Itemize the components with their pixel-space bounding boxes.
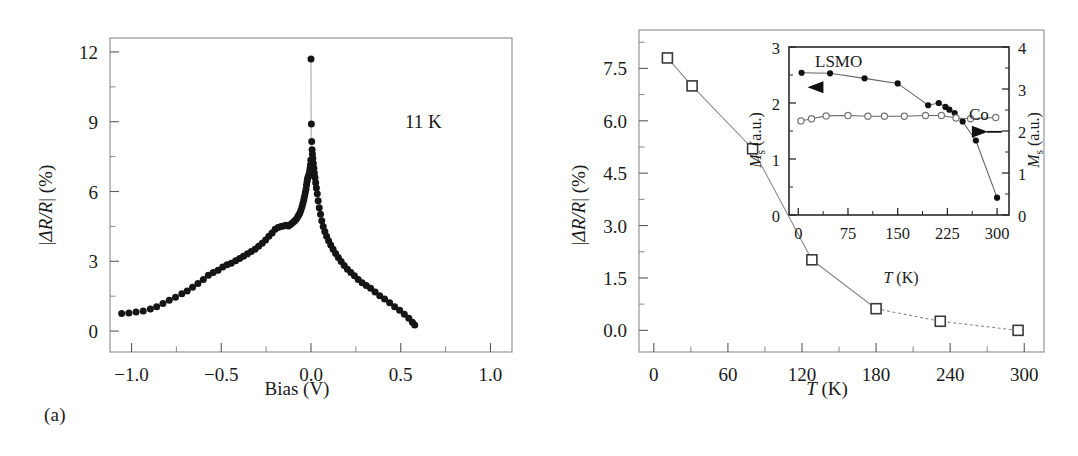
- data-point: [118, 310, 125, 317]
- inset-co-point: [798, 118, 804, 124]
- data-point: [166, 297, 173, 304]
- panel-a-y-tick-label: 3: [89, 251, 99, 272]
- data-point: [314, 190, 321, 197]
- inset-co-point: [953, 115, 959, 121]
- inset-label-co: Co: [969, 105, 989, 124]
- inset-lsmo-point: [895, 80, 901, 86]
- data-point: [125, 309, 132, 316]
- panel-b-y-tick-label: 6.0: [603, 111, 627, 132]
- panel-a-x-tick-label: −0.5: [204, 364, 238, 385]
- data-point: [153, 303, 160, 310]
- panel-a-x-tick-label: −1.0: [114, 364, 148, 385]
- inset-lsmo-point: [861, 75, 867, 81]
- inset-y-tick-label-left: 3: [772, 39, 780, 58]
- data-point: [411, 322, 418, 329]
- panel-b-connector-line-dashed: [876, 309, 1018, 331]
- inset-co-point: [938, 112, 944, 118]
- inset-co-point: [881, 113, 887, 119]
- panel-a-temperature-annotation: 11 K: [405, 111, 442, 132]
- inset-lsmo-point: [994, 195, 1000, 201]
- panel-a-caption: (a): [44, 404, 66, 426]
- inset-x-tick-label: 225: [935, 224, 960, 243]
- inset-co-point: [993, 114, 999, 120]
- panel-b-x-tick-label: 180: [862, 364, 891, 385]
- inset-y-tick-label-left: 2: [772, 95, 780, 114]
- panel-b-y-tick-label: 7.5: [603, 58, 627, 79]
- data-point: [316, 204, 323, 211]
- panel-b-x-tick-label: 300: [1010, 364, 1039, 385]
- inset-co-point: [901, 113, 907, 119]
- inset-lsmo-point: [946, 107, 952, 113]
- data-point: [159, 300, 166, 307]
- panel-b-y-tick-label: 1.5: [603, 268, 627, 289]
- inset-lsmo-point: [936, 100, 942, 106]
- panel-b: 0601201802403000.01.53.04.56.07.5 |ΔR/R|…: [539, 0, 1078, 456]
- panel-a-y-tick-label: 6: [89, 182, 99, 203]
- inset-y-tick-label-left: 0: [772, 207, 780, 226]
- panel-b-x-axis-title: T (K): [806, 378, 848, 400]
- inset-axes: 075150225300012301234: [772, 39, 1027, 243]
- data-point: [315, 197, 322, 204]
- inset-co-point: [823, 113, 829, 119]
- inset-x-tick-label: 0: [794, 224, 802, 243]
- data-point: [140, 308, 147, 315]
- panel-b-y-tick-label: 0.0: [603, 320, 627, 341]
- data-point: [317, 211, 324, 218]
- inset-y-tick-label-left: 1: [772, 151, 780, 170]
- inset-lsmo-point: [960, 118, 966, 124]
- panel-b-x-tick-label: 0: [649, 364, 659, 385]
- inset-co-point: [808, 116, 814, 122]
- data-point: [172, 294, 179, 301]
- data-point: [308, 121, 315, 128]
- panel-b-plot: 0601201802403000.01.53.04.56.07.5 |ΔR/R|…: [539, 0, 1078, 456]
- inset-co-point: [845, 112, 851, 118]
- inset-x-tick-label: 300: [985, 224, 1010, 243]
- data-point: [935, 316, 945, 326]
- panel-a: −1.0−0.50.00.51.0036912 |ΔR/R| (%) Bias …: [0, 0, 539, 456]
- data-point: [687, 81, 697, 91]
- data-point: [807, 255, 817, 265]
- data-point: [133, 308, 140, 315]
- panel-a-axes: −1.0−0.50.00.51.0036912: [79, 38, 512, 385]
- data-point: [308, 55, 315, 62]
- inset-y-axis-left-title: Ms (a.u.): [747, 112, 767, 169]
- panel-a-data-series: [118, 55, 418, 328]
- panel-a-y-tick-label: 0: [89, 321, 99, 342]
- inset-lsmo-point: [925, 102, 931, 108]
- panel-a-y-tick-label: 12: [79, 42, 98, 63]
- panel-a-x-axis-title: Bias (V): [265, 378, 330, 400]
- panel-b-x-tick-label: 240: [936, 364, 965, 385]
- data-point: [308, 138, 315, 145]
- inset-co-point: [865, 113, 871, 119]
- inset-chart: 075150225300012301234 Ms (a.u.) Ms (a.u.…: [747, 39, 1045, 287]
- data-point: [1013, 325, 1023, 335]
- data-point: [662, 53, 672, 63]
- data-point: [871, 304, 881, 314]
- panel-a-y-axis-title: |ΔR/R| (%): [35, 165, 57, 246]
- inset-x-axis-title: T (K): [883, 269, 918, 287]
- panel-b-y-tick-label: 3.0: [603, 216, 627, 237]
- inset-lsmo-point: [973, 137, 979, 143]
- inset-y-tick-label-right: 4: [1018, 39, 1026, 58]
- panel-a-x-tick-label: 1.0: [479, 364, 503, 385]
- inset-y-tick-label-right: 0: [1018, 207, 1026, 226]
- inset-y-axis-right-title: Ms (a.u.): [1025, 112, 1045, 169]
- inset-x-tick-label: 150: [885, 224, 910, 243]
- inset-lsmo-point: [827, 70, 833, 76]
- inset-label-lsmo: LSMO: [815, 52, 862, 71]
- data-point: [147, 305, 154, 312]
- inset-co-point: [922, 112, 928, 118]
- figure-container: −1.0−0.50.00.51.0036912 |ΔR/R| (%) Bias …: [0, 0, 1078, 456]
- inset-y-tick-label-right: 3: [1018, 81, 1026, 100]
- inset-lsmo-point: [798, 70, 804, 76]
- panel-a-y-tick-label: 9: [89, 112, 99, 133]
- panel-a-x-tick-label: 0.5: [389, 364, 413, 385]
- inset-x-tick-label: 75: [840, 224, 857, 243]
- panel-b-y-axis-title: |ΔR/R| (%): [568, 165, 590, 246]
- panel-b-x-tick-label: 60: [718, 364, 737, 385]
- panel-a-plot: −1.0−0.50.00.51.0036912 |ΔR/R| (%) Bias …: [0, 0, 539, 456]
- panel-b-y-tick-label: 4.5: [603, 163, 627, 184]
